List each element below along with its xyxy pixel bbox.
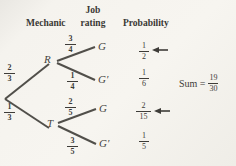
sum-annotation: Sum = 19 30 xyxy=(179,74,218,93)
outcome-probability-RG: 1 2 xyxy=(139,42,149,61)
sum-fraction: 19 30 xyxy=(208,74,218,93)
node-label-T: T xyxy=(47,118,53,129)
left-arrow-icon xyxy=(152,46,169,54)
node-label-R: R xyxy=(44,54,51,65)
outcome-probability-RGprime: 1 6 xyxy=(139,69,149,88)
branch-fraction-root-T: 1 3 xyxy=(4,103,15,122)
branch-line-T-to-G xyxy=(58,109,96,123)
node-label-T-G: G xyxy=(99,103,107,114)
branch-fraction-R-G: 3 4 xyxy=(65,35,76,54)
sum-label: Sum = xyxy=(179,78,205,89)
left-arrow-icon xyxy=(154,107,171,115)
node-label-R-Gprime: G′ xyxy=(98,74,108,85)
probability-tree-diagram: Mechanic Job rating Probability R T G G′… xyxy=(0,0,236,166)
outcome-probability-TG: 2 15 xyxy=(136,102,151,121)
branch-fraction-T-Gprime: 3 5 xyxy=(67,137,78,156)
node-label-R-G: G xyxy=(98,41,106,52)
branch-line-R-to-G xyxy=(57,47,95,61)
branch-fraction-R-Gprime: 1 4 xyxy=(67,72,78,91)
branch-fraction-T-G: 2 5 xyxy=(65,98,76,117)
branch-fraction-root-R: 2 3 xyxy=(4,64,15,83)
outcome-probability-TGprime: 1 5 xyxy=(139,132,149,151)
node-label-T-Gprime: G′ xyxy=(99,138,109,149)
